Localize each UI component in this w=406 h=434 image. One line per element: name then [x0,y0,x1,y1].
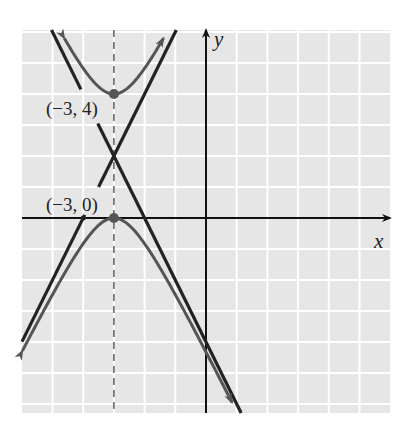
vertex-top-label: (−3, 4) [46,98,98,120]
vertex-bottom-label: (−3, 0) [46,194,98,216]
hyperbola-graph: (−3, 4) (−3, 0) x y [0,0,406,434]
vertex-bottom-point [109,213,119,223]
vertex-top-point [109,89,119,99]
y-axis-label: y [212,27,224,51]
x-axis-label: x [373,229,384,253]
